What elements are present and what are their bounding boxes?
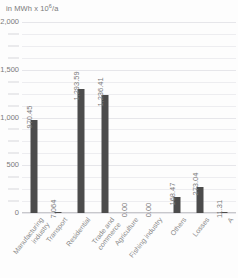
y-axis-minor-tick — [8, 129, 19, 130]
unit-caption-text: in MWh x 10 — [6, 4, 49, 13]
bar — [78, 89, 85, 213]
y-axis-tick-label: 500 — [6, 160, 19, 169]
bar-group: 1,236.41 — [92, 22, 118, 213]
x-axis-category-label: Others — [169, 216, 188, 237]
y-axis-tick-label: 1,500 — [0, 64, 19, 73]
bar-group: 1,293.59 — [68, 22, 94, 213]
plot-area: 05001,0001,5002,000970.457.0641,293.591,… — [22, 22, 236, 213]
bar-value-label: 1,236.41 — [96, 77, 105, 106]
bar-value-label: 273.04 — [191, 172, 200, 195]
y-axis-minor-tick — [8, 45, 19, 46]
y-axis-minor-tick — [8, 141, 19, 142]
y-axis-minor-tick — [8, 105, 19, 106]
bar-value-label: 7.064 — [49, 200, 58, 219]
bar-group: 970.45 — [21, 22, 47, 213]
bar-group: 0.00 — [140, 22, 166, 213]
unit-caption-suffix: /a — [52, 4, 58, 13]
y-axis-minor-tick — [8, 153, 19, 154]
bar-value-label: 0.00 — [144, 203, 153, 218]
y-axis-minor-tick — [8, 189, 19, 190]
y-axis-minor-tick — [8, 177, 19, 178]
y-axis-tick-label: 2,000 — [0, 17, 19, 26]
y-axis-minor-tick — [8, 33, 19, 34]
y-axis-minor-tick — [8, 93, 19, 94]
bar-value-label: 970.45 — [25, 106, 34, 129]
x-axis-category-label: A — [226, 216, 235, 225]
y-axis-minor-tick — [8, 81, 19, 82]
bar-value-label: 11.31 — [215, 200, 224, 218]
bar-value-label: 0.00 — [120, 203, 129, 218]
bar-value-label: 1,293.59 — [72, 72, 81, 101]
bar — [102, 95, 109, 213]
bar-group: 0.00 — [116, 22, 142, 213]
bar-value-label: 168.47 — [168, 182, 177, 205]
bar-group: 11.31 — [211, 22, 237, 213]
x-axis-category-label: Losses — [192, 216, 212, 238]
bar-chart: in MWh x 106/a 05001,0001,5002,000970.45… — [0, 0, 238, 278]
bar-group: 168.47 — [164, 22, 190, 213]
bar-group: 273.04 — [187, 22, 213, 213]
y-axis-tick-label: 0 — [15, 208, 19, 217]
unit-caption: in MWh x 106/a — [6, 4, 58, 13]
bar — [30, 120, 37, 213]
y-axis-minor-tick — [8, 57, 19, 58]
y-axis-tick-label: 1,000 — [0, 112, 19, 121]
y-axis-minor-tick — [8, 201, 19, 202]
bar-group: 7.064 — [45, 22, 71, 213]
